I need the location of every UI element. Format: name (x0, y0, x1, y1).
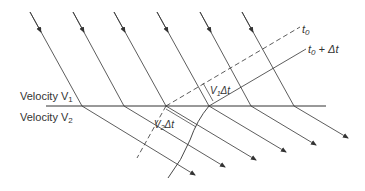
t0-label: t0 (302, 23, 310, 37)
v2dt-label: V2Δt (154, 119, 175, 131)
incident-rays (30, 12, 294, 106)
wavefront-t0-lower (137, 106, 166, 158)
velocity-v2-label: Velocity V2 (20, 111, 73, 125)
refraction-diagram: Velocity V1 Velocity V2 t0 t0 + Δt V1Δt … (0, 0, 365, 191)
v1dt-label: V1Δt (210, 85, 231, 97)
refracted-rays (82, 106, 348, 175)
wavefront-t0-dt-lower (168, 106, 209, 178)
t0-dt-label: t0 + Δt (308, 43, 339, 57)
wavefront-t0 (166, 27, 300, 106)
wavefront-t0-dt (209, 49, 306, 106)
velocity-v1-label: Velocity V1 (20, 90, 73, 104)
